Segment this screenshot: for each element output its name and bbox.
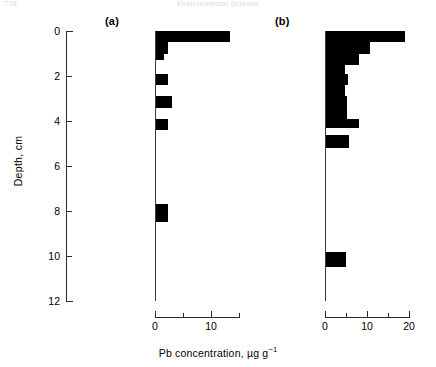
y-tick-label-0: 0: [34, 26, 60, 36]
bar: [326, 65, 345, 74]
y-tick-label-6: 6: [34, 161, 60, 171]
bar: [326, 85, 345, 96]
bar: [326, 96, 347, 107]
y-tick-6: [66, 166, 72, 167]
y-tick-10: [66, 256, 72, 257]
bar: [326, 252, 346, 268]
panel-a-x-axis: [155, 317, 240, 318]
y-tick-label-2: 2: [34, 71, 60, 81]
bar: [326, 54, 359, 65]
panel-a-xtick-10: [211, 311, 212, 317]
y-tick-label-10: 10: [34, 251, 60, 261]
bar: [156, 119, 168, 130]
panel-a: (a): [155, 31, 270, 301]
bar: [326, 108, 347, 119]
bar: [326, 135, 349, 149]
x-axis-title: Pb concentration, µg g−1: [0, 345, 436, 359]
bar: [156, 54, 164, 61]
bar: [156, 42, 168, 53]
panel-b-xtick-15: [388, 313, 389, 317]
panel-a-xlabel-0: 0: [140, 320, 170, 332]
bar: [156, 204, 168, 222]
panel-b: (b): [325, 31, 436, 301]
y-tick-4: [66, 121, 72, 122]
bar: [326, 42, 370, 53]
x-axis-title-main: Pb concentration,: [159, 347, 247, 359]
y-tick-2: [66, 76, 72, 77]
panel-a-xtick-0: [155, 311, 156, 317]
bar: [156, 96, 172, 107]
panel-a-label: (a): [105, 15, 119, 27]
panel-b-xlabel-0: 0: [310, 320, 340, 332]
y-axis-cap-bottom: [66, 301, 73, 302]
panel-b-xtick-5: [346, 313, 347, 317]
panel-a-xlabel-10: 10: [196, 320, 226, 332]
figure-depth-profiles: 778 Environmental Science 0 2 4 6 8 10 1…: [0, 0, 436, 367]
panel-b-x-axis: [325, 317, 410, 318]
y-axis-cap-top: [66, 31, 73, 32]
y-tick-label-12: 12: [34, 296, 60, 306]
panel-b-xlabel-10: 10: [352, 320, 382, 332]
panel-b-xtick-20: [409, 311, 410, 317]
y-axis-title: Depth, cm: [12, 121, 24, 201]
x-axis-title-units: µg g: [247, 347, 268, 359]
bar: [326, 119, 359, 128]
bar: [326, 74, 348, 85]
y-tick-label-8: 8: [34, 206, 60, 216]
panel-a-xtick-5: [183, 313, 184, 317]
panel-b-label: (b): [275, 15, 290, 27]
bar: [156, 31, 230, 42]
panel-a-baseline: [155, 31, 156, 301]
running-head: 778 Environmental Science: [0, 0, 436, 12]
y-tick-8: [66, 211, 72, 212]
panel-b-xtick-0: [325, 311, 326, 317]
panel-b-xlabel-20: 20: [394, 320, 424, 332]
bar: [156, 74, 168, 85]
x-axis-title-exponent: −1: [268, 345, 277, 354]
panel-a-xtick-15: [239, 313, 240, 317]
panel-b-xtick-10: [367, 311, 368, 317]
running-head-title: Environmental Science: [0, 0, 436, 7]
y-tick-label-4: 4: [34, 116, 60, 126]
bar: [326, 31, 405, 42]
